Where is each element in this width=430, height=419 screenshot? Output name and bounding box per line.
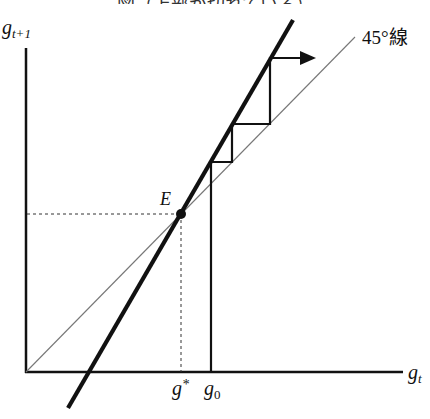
x-axis-label: gt: [408, 361, 422, 386]
cobweb-diagram: gt+1 gt 45°線 E g* g0: [0, 0, 430, 419]
arrow-right-icon: [300, 51, 316, 65]
equilibrium-label: E: [159, 189, 171, 209]
y-axis-label: gt+1: [2, 16, 31, 41]
g-star-label: g*: [172, 377, 189, 400]
line-45-label: 45°線: [362, 27, 408, 48]
line-45-degree: [26, 37, 355, 372]
equilibrium-point: [176, 209, 186, 219]
g0-label: g0: [204, 377, 221, 402]
